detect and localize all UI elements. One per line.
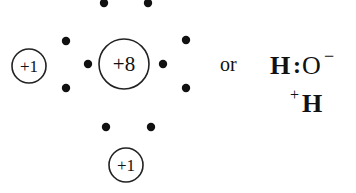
oxygen-nucleus: +8 (99, 39, 149, 89)
formula-hydrogen: H (270, 51, 290, 80)
electron-dot (182, 84, 190, 92)
formula-line-1: H : O − (270, 46, 334, 80)
electron-dot (182, 36, 190, 44)
left-hydrogen-charge: +1 (20, 57, 38, 76)
formula-electron-pair: : (293, 52, 301, 78)
electron-dot (102, 123, 110, 131)
electron-dot (84, 60, 92, 68)
formula-bottom-hydrogen: H (302, 89, 322, 118)
oxygen-charge: +8 (113, 52, 135, 76)
formula-line-2: + H (290, 86, 322, 118)
electron-dot (62, 37, 70, 45)
electron-dot (144, 0, 152, 7)
bottom-hydrogen-charge: +1 (117, 156, 135, 175)
formula-oxygen: O (302, 51, 321, 80)
electron-dot (147, 123, 155, 131)
bottom-hydrogen-nucleus: +1 (109, 148, 143, 182)
left-hydrogen-nucleus: +1 (12, 49, 46, 83)
formula-positive-charge: + (290, 86, 299, 103)
formula-negative-charge: − (324, 46, 334, 66)
electron-dot (159, 60, 167, 68)
electron-dot (62, 84, 70, 92)
electron-dot (100, 0, 108, 7)
electron-dot-diagram: +1 +8 +1 or H : O − + H (0, 0, 356, 193)
or-label: or (220, 53, 237, 75)
